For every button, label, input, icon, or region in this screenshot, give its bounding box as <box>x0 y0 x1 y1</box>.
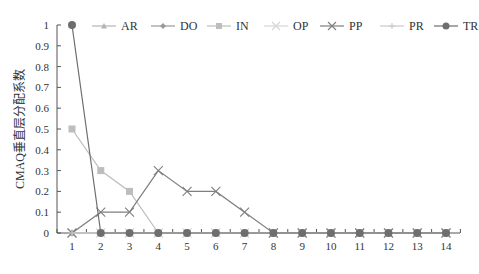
y-tick-label: 0.3 <box>35 165 49 177</box>
x-marker-icon <box>154 166 163 175</box>
x-tick-label: 2 <box>98 240 104 252</box>
legend-label: IN <box>236 19 249 33</box>
y-tick-label: 0.2 <box>35 185 49 197</box>
circle-marker-icon <box>269 229 277 237</box>
legend-item-in[interactable]: IN <box>207 19 249 33</box>
line-chart: CMAQ垂直层分配系数 00.10.20.30.40.50.60.70.80.9… <box>0 0 479 274</box>
square-marker-icon <box>69 126 76 133</box>
square-marker-icon <box>216 23 222 29</box>
circle-marker-icon <box>327 229 335 237</box>
circle-marker-icon <box>183 229 191 237</box>
series-line <box>72 129 446 233</box>
circle-marker-icon <box>97 229 105 237</box>
circle-marker-icon <box>298 229 306 237</box>
circle-marker-icon <box>413 229 421 237</box>
legend-label: DO <box>180 19 198 33</box>
x-tick-label: 12 <box>383 240 394 252</box>
circle-marker-icon <box>443 23 450 30</box>
x-tick-label: 13 <box>412 240 424 252</box>
legend-item-pr[interactable]: PR <box>380 19 424 33</box>
x-tick-label: 4 <box>156 240 162 252</box>
y-axis-label: CMAQ垂直层分配系数 <box>12 69 27 189</box>
legend-item-ar[interactable]: AR <box>92 19 138 33</box>
circle-marker-icon <box>384 229 392 237</box>
circle-marker-icon <box>356 229 364 237</box>
y-tick-label: 0.5 <box>35 123 49 135</box>
legend-item-tr[interactable]: TR <box>434 19 478 33</box>
x-tick-label: 14 <box>441 240 453 252</box>
x-tick-label: 7 <box>242 240 248 252</box>
x-marker-icon <box>240 208 249 217</box>
x-tick-label: 9 <box>299 240 305 252</box>
circle-marker-icon <box>154 229 162 237</box>
diamond-marker-icon <box>160 23 166 29</box>
series-line <box>72 25 446 233</box>
x-tick-label: 11 <box>354 240 365 252</box>
y-tick-label: 0.1 <box>35 206 49 218</box>
x-tick-label: 8 <box>271 240 277 252</box>
circle-marker-icon <box>68 21 76 29</box>
plot-area <box>68 21 451 238</box>
series-tr <box>68 21 450 237</box>
x-tick-label: 6 <box>213 240 219 252</box>
series-pp <box>68 166 451 237</box>
series-in <box>69 126 450 237</box>
x-tick-label: 5 <box>184 240 190 252</box>
square-marker-icon <box>97 167 104 174</box>
y-tick-label: 0.7 <box>35 81 49 93</box>
x-tick-label: 1 <box>69 240 75 252</box>
legend-label: OP <box>293 19 309 33</box>
y-axis-title: CMAQ垂直层分配系数 <box>12 69 27 189</box>
legend-label: TR <box>463 19 478 33</box>
circle-marker-icon <box>126 229 134 237</box>
circle-marker-icon <box>241 229 249 237</box>
circle-marker-icon <box>212 229 220 237</box>
legend-label: PR <box>409 19 424 33</box>
y-tick-label: 0.9 <box>35 40 49 52</box>
legend-label: PP <box>349 19 363 33</box>
legend-item-op[interactable]: OP <box>264 19 309 33</box>
y-tick-label: 0.6 <box>35 102 49 114</box>
x-tick-label: 10 <box>325 240 337 252</box>
y-tick-label: 1 <box>44 19 50 31</box>
legend-label: AR <box>121 19 138 33</box>
x-tick-label: 3 <box>127 240 133 252</box>
legend-item-do[interactable]: DO <box>151 19 198 33</box>
legend-item-pp[interactable]: PP <box>320 19 363 33</box>
legend: ARDOINOPPPPRTR <box>92 19 478 33</box>
square-marker-icon <box>126 188 133 195</box>
circle-marker-icon <box>442 229 450 237</box>
y-tick-label: 0.4 <box>35 144 49 156</box>
series-line <box>72 171 446 233</box>
plus-marker-icon <box>389 23 395 29</box>
y-tick-label: 0 <box>44 227 50 239</box>
y-tick-label: 0.8 <box>35 61 49 73</box>
